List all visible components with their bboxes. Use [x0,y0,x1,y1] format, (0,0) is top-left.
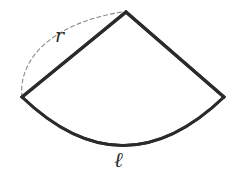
sector-drawing [0,0,246,184]
radius-label: r [55,26,64,45]
circular-sector-figure: r ℓ [0,0,246,184]
sector-outline [22,12,224,146]
arc-length-label: ℓ [114,150,123,171]
